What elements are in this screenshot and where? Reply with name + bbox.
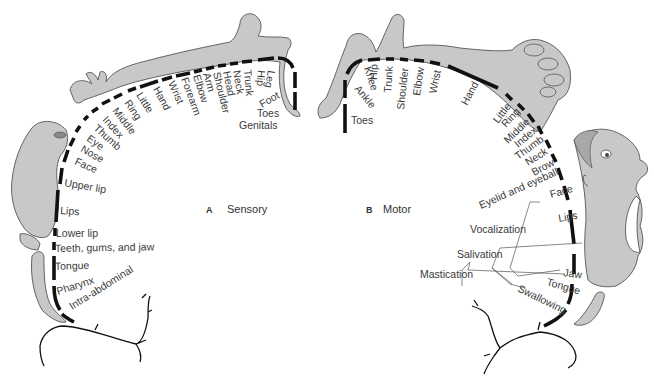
sensory-label-tongue: Tongue: [55, 259, 90, 272]
sensory-panel: Leg Hip Trunk Neck Head Shoulder Arm Elb…: [12, 14, 301, 366]
motor-label-hip: Hip: [367, 64, 380, 80]
sensory-panel-title: Sensory: [227, 203, 268, 215]
motor-label-hand: Hand: [458, 79, 480, 107]
motor-label-toes: Toes: [351, 114, 373, 126]
motor-label-shoulder: Shoulder: [394, 67, 410, 111]
motor-label-wrist: Wrist: [426, 69, 443, 95]
sensory-label-teeth-gums-jaw: Teeth, gums, and jaw: [55, 240, 155, 254]
motor-label-lips: Lips: [557, 209, 578, 224]
motor-label-vocalization: Vocalization: [470, 223, 526, 235]
sensory-label-toes: Toes: [257, 107, 279, 119]
sensory-label-upper-lip: Upper lip: [64, 176, 108, 195]
motor-panel-letter: B: [366, 205, 373, 215]
motor-label-trunk: Trunk: [381, 65, 395, 93]
homunculus-diagram: Leg Hip Trunk Neck Head Shoulder Arm Elb…: [0, 0, 654, 388]
motor-nerve-branch: [474, 300, 540, 356]
sensory-labels: Leg Hip Trunk Neck Head Shoulder Arm Elb…: [55, 69, 282, 312]
sensory-label-lower-lip: Lower lip: [56, 227, 98, 239]
sensory-label-lips: Lips: [60, 204, 80, 217]
motor-panel-title: Motor: [383, 203, 411, 215]
motor-label-elbow: Elbow: [410, 66, 426, 96]
motor-label-mastication: Mastication: [420, 268, 473, 280]
motor-panel: Toes Ankle Knee Hip Trunk Shoulder Elbow…: [318, 14, 648, 374]
motor-label-face: Face: [548, 182, 574, 200]
sensory-label-genitals: Genitals: [239, 119, 278, 131]
motor-label-jaw: Jaw: [563, 266, 584, 281]
sensory-nerve-branch: [95, 294, 152, 330]
sensory-panel-letter: A: [206, 205, 213, 215]
sensory-eye-figure: [54, 132, 66, 138]
motor-tongue-figure: [574, 292, 604, 325]
sensory-label-hip: Hip: [255, 70, 268, 87]
